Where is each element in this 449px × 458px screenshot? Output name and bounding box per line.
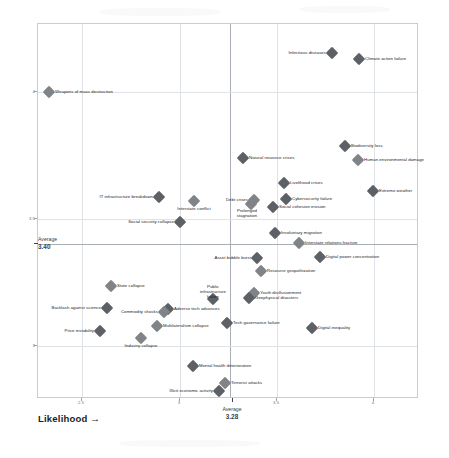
x-tick-label: 2.5 [78, 400, 84, 405]
data-point-label: Commodity shocks [121, 309, 158, 314]
gridline-x-average [230, 24, 231, 397]
data-point-label: Weapons of mass destruction [55, 89, 113, 94]
data-point-label: IT infrastructure breakdown [99, 194, 153, 199]
data-point-label: Climate action failure [365, 56, 406, 61]
x-tick-label: 3 [178, 400, 180, 405]
data-point-label: Illicit economic activity [169, 388, 213, 393]
data-point-marker[interactable] [151, 320, 164, 333]
data-point-label: Social cohesion erosion [279, 204, 326, 209]
data-point-marker[interactable] [251, 252, 264, 265]
data-point-label: State collapse [117, 283, 145, 288]
data-point-marker[interactable] [293, 237, 306, 250]
background-noise [100, 8, 220, 16]
x-axis-title: Likelihood → [38, 413, 100, 424]
background-noise [120, 440, 260, 447]
data-point-label: Natural resource crises [249, 155, 294, 160]
data-point-label: Debt crises [226, 197, 248, 202]
gridline-x-2_5 [82, 24, 83, 397]
y-average-value: 3.40 [38, 243, 57, 251]
data-point-marker[interactable] [221, 317, 234, 330]
y-average-label: Average [38, 236, 57, 243]
data-point-marker[interactable] [314, 251, 327, 264]
gridline-x-3_5 [277, 24, 278, 397]
data-point-label: Industry collapse [124, 343, 157, 348]
x-average-label: Average [222, 406, 241, 413]
data-point-label: Resource geopolitization [267, 268, 315, 273]
y-tick-label: 4 [28, 89, 35, 94]
gridline-y-3 [38, 346, 417, 347]
x-tick-label: 4 [372, 400, 374, 405]
data-point-marker[interactable] [353, 53, 366, 66]
data-point-label: Mental health deterioration [199, 363, 251, 368]
data-point-marker[interactable] [174, 216, 187, 229]
y-tick-label: 3.5 [28, 216, 35, 221]
data-point-label: Price instability [64, 328, 94, 333]
data-point-marker[interactable] [187, 360, 200, 373]
x-average-tick-mark [232, 398, 233, 402]
data-point-marker[interactable] [306, 322, 319, 335]
data-point-label: Biodiversity loss [351, 143, 383, 148]
data-point-label: Infectious diseases [289, 50, 327, 55]
data-point-label: Human environmental damage [364, 157, 424, 162]
data-point-label: Tech governance failure [233, 320, 280, 325]
data-point-label: Digital inequality [318, 325, 350, 330]
data-point-label: Backlash against science [52, 305, 101, 310]
plot-area: Infectious diseasesClimate action failur… [37, 23, 418, 398]
data-point-marker[interactable] [94, 325, 107, 338]
data-point-label: Geophysical disasters [255, 295, 298, 300]
data-point-label: Cybersecurity failure [292, 196, 332, 201]
data-point-marker[interactable] [105, 280, 118, 293]
data-point-marker[interactable] [278, 177, 291, 190]
data-point-label: Adverse tech advances [174, 306, 220, 311]
data-point-label: Digital power concentration [326, 254, 379, 259]
data-point-label: Public infrastructure failure [200, 284, 226, 300]
data-point-label: Multilateralism collapse [163, 323, 209, 328]
data-point-marker[interactable] [43, 86, 56, 99]
global-risks-scatter-chart: Infectious diseasesClimate action failur… [0, 0, 449, 458]
data-point-label: Social security collapse [128, 219, 174, 224]
data-point-label: Terrorist attacks [231, 380, 262, 385]
data-point-marker[interactable] [153, 191, 166, 204]
data-point-label: Interstate conflict [177, 206, 210, 211]
gridline-x-4 [374, 24, 375, 397]
data-point-marker[interactable] [237, 152, 250, 165]
data-point-marker[interactable] [101, 302, 114, 315]
y-tick-label: 3 [28, 343, 35, 348]
data-point-label: Involuntary migration [281, 230, 322, 235]
data-point-marker[interactable] [367, 185, 380, 198]
data-point-marker[interactable] [269, 227, 282, 240]
data-point-marker[interactable] [326, 47, 339, 60]
background-noise [300, 6, 390, 13]
data-point-label: Interstate relations fracture [305, 240, 358, 245]
x-average-annotation: Average 3.28 [222, 406, 241, 421]
y-average-annotation: Average 3.40 [38, 236, 57, 251]
data-point-label: Prolonged stagnation [235, 208, 259, 218]
x-average-value: 3.28 [222, 413, 241, 421]
data-point-label: Asset bubble burst [215, 255, 252, 260]
data-point-label: Livelihood crises [290, 180, 323, 185]
data-point-marker[interactable] [339, 140, 352, 153]
data-point-label: Extreme weather [379, 188, 412, 193]
x-tick-label: 3.5 [273, 400, 279, 405]
gridline-y-average [38, 244, 417, 245]
gridline-y-3_5 [38, 219, 417, 220]
data-point-marker[interactable] [352, 154, 365, 167]
data-point-marker[interactable] [255, 265, 268, 278]
